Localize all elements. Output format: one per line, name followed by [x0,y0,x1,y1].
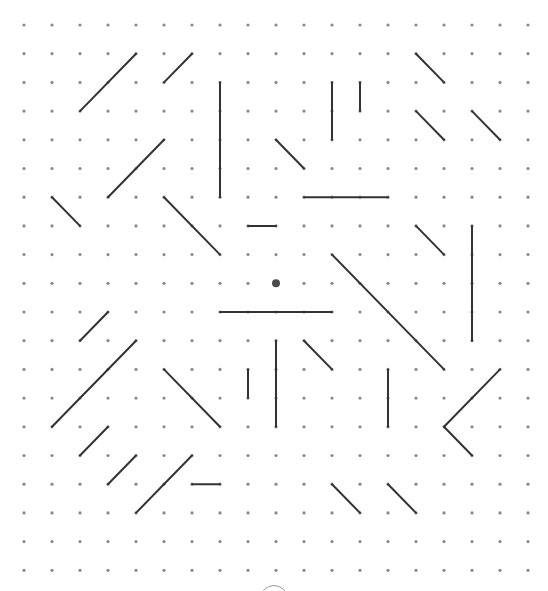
grid-dot[interactable] [246,282,249,285]
grid-dot[interactable] [50,454,53,457]
grid-dot[interactable] [498,253,501,256]
grid-dot[interactable] [330,540,333,543]
grid-dot[interactable] [50,138,53,141]
grid-dot[interactable] [414,253,417,256]
grid-dot[interactable] [106,569,109,572]
grid-dot[interactable] [106,454,109,457]
grid-dot[interactable] [330,282,333,285]
grid-dot[interactable] [274,511,277,514]
grid-dot[interactable] [190,23,193,26]
grid-dot[interactable] [470,167,473,170]
grid-dot[interactable] [470,368,473,371]
grid-dot[interactable] [106,167,109,170]
grid-dot[interactable] [50,540,53,543]
grid-dot[interactable] [274,540,277,543]
grid-dot[interactable] [246,483,249,486]
grid-dot[interactable] [386,81,389,84]
grid-dot[interactable] [414,368,417,371]
grid-dot[interactable] [526,167,529,170]
grid-dot[interactable] [134,483,137,486]
grid-dot[interactable] [386,569,389,572]
grid-dot[interactable] [106,511,109,514]
grid-dot[interactable] [78,167,81,170]
grid-dot[interactable] [470,196,473,199]
grid-dot[interactable] [162,253,165,256]
grid-dot[interactable] [386,253,389,256]
grid-dot[interactable] [22,540,25,543]
grid-dot[interactable] [134,569,137,572]
grid-dot[interactable] [302,511,305,514]
grid-dot[interactable] [106,52,109,55]
grid-dot[interactable] [106,224,109,227]
grid-dot[interactable] [498,339,501,342]
grid-dot[interactable] [162,167,165,170]
grid-dot[interactable] [358,167,361,170]
grid-dot[interactable] [134,23,137,26]
grid-dot[interactable] [218,52,221,55]
grid-dot[interactable] [498,23,501,26]
grid-dot[interactable] [22,23,25,26]
grid-dot[interactable] [22,425,25,428]
grid-dot[interactable] [246,110,249,113]
grid-dot[interactable] [386,23,389,26]
grid-dot[interactable] [190,310,193,313]
grid-dot[interactable] [386,454,389,457]
grid-dot[interactable] [50,282,53,285]
grid-dot[interactable] [414,425,417,428]
grid-dot[interactable] [498,425,501,428]
grid-dot[interactable] [414,23,417,26]
grid-dot[interactable] [190,110,193,113]
grid-dot[interactable] [50,81,53,84]
grid-dot[interactable] [78,511,81,514]
grid-dot[interactable] [526,310,529,313]
grid-dot[interactable] [218,569,221,572]
grid-dot[interactable] [414,282,417,285]
grid-dot[interactable] [470,52,473,55]
grid-dot[interactable] [106,23,109,26]
grid-dot[interactable] [414,483,417,486]
grid-dot[interactable] [330,224,333,227]
grid-dot[interactable] [162,282,165,285]
grid-dot[interactable] [526,569,529,572]
grid-dot[interactable] [162,540,165,543]
grid-dot[interactable] [526,339,529,342]
grid-dot[interactable] [442,196,445,199]
grid-dot[interactable] [358,339,361,342]
grid-dot[interactable] [218,224,221,227]
grid-dot[interactable] [50,224,53,227]
grid-dot[interactable] [246,167,249,170]
grid-dot[interactable] [442,397,445,400]
grid-dot[interactable] [442,52,445,55]
grid-dot[interactable] [50,23,53,26]
grid-dot[interactable] [22,511,25,514]
grid-dot[interactable] [218,339,221,342]
grid-dot[interactable] [302,454,305,457]
grid-dot[interactable] [498,483,501,486]
grid-dot[interactable] [246,511,249,514]
grid-dot[interactable] [526,511,529,514]
grid-dot[interactable] [470,483,473,486]
grid-dot[interactable] [190,167,193,170]
grid-dot[interactable] [134,282,137,285]
grid-dot[interactable] [246,52,249,55]
grid-dot[interactable] [78,52,81,55]
grid-dot[interactable] [190,282,193,285]
grid-dot[interactable] [22,454,25,457]
grid-dot[interactable] [22,138,25,141]
grid-dot[interactable] [498,397,501,400]
grid-dot[interactable] [330,425,333,428]
grid-dot[interactable] [22,569,25,572]
grid-dot[interactable] [134,425,137,428]
grid-dot[interactable] [22,110,25,113]
grid-dot[interactable] [274,23,277,26]
grid-dot[interactable] [78,540,81,543]
grid-dot[interactable] [302,224,305,227]
grid-dot[interactable] [498,52,501,55]
grid-dot[interactable] [246,425,249,428]
dot-grid-board[interactable] [0,0,548,591]
grid-dot[interactable] [470,138,473,141]
grid-dot[interactable] [78,425,81,428]
grid-dot[interactable] [358,253,361,256]
grid-dot[interactable] [442,454,445,457]
grid-dot[interactable] [330,23,333,26]
